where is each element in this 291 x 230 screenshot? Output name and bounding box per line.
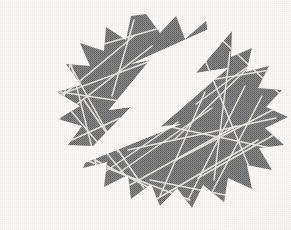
logo-artboard — [0, 0, 291, 230]
logo-vector — [0, 0, 291, 230]
